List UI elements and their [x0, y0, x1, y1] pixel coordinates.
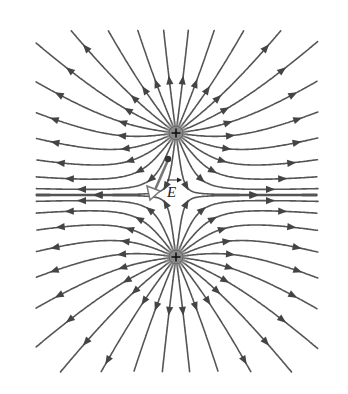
field-arrow-icon — [122, 105, 133, 116]
field-arrow-icon — [55, 223, 65, 231]
field-arrow-icon — [117, 263, 128, 273]
field-line — [181, 81, 317, 132]
field-arrow-icon — [102, 355, 113, 366]
field-line — [37, 225, 172, 254]
field-line — [108, 31, 173, 129]
field-arrow-icon — [139, 84, 150, 95]
field-arrow-icon — [239, 355, 250, 366]
field-arrow-icon — [207, 214, 218, 225]
field-line — [177, 138, 317, 195]
field-line — [177, 262, 190, 372]
field-arrow-icon — [117, 250, 127, 258]
field-line — [178, 138, 318, 190]
field-arrow-icon — [217, 224, 228, 234]
field-arrow-icon — [165, 75, 173, 85]
field-line — [36, 82, 171, 132]
field-arrow-icon — [133, 214, 144, 225]
field-line — [36, 196, 175, 253]
field-arrow-icon — [202, 84, 213, 95]
field-arrow-icon — [287, 223, 297, 231]
field-arrow-icon — [151, 301, 161, 312]
field-arrow-icon — [224, 263, 235, 273]
field-arrow-icon — [49, 266, 60, 276]
field-arrow-icon — [266, 197, 275, 204]
field-arrow-icon — [223, 118, 234, 128]
field-line — [101, 261, 173, 372]
field-line — [180, 225, 318, 254]
field-arrow-icon — [77, 186, 86, 193]
field-line — [180, 136, 318, 165]
field-vector-label: E — [166, 184, 176, 200]
field-arrow-icon — [49, 114, 60, 124]
field-line — [162, 262, 175, 372]
field-arrow-icon — [203, 296, 214, 307]
field-arrow-icon — [226, 132, 236, 140]
field-arrow-icon — [53, 89, 64, 100]
field-arrow-icon — [288, 290, 299, 301]
field-arrow-icon — [278, 208, 287, 216]
field-arrow-icon — [65, 175, 74, 183]
field-arrow-icon — [121, 275, 132, 286]
field-arrow-icon — [226, 250, 236, 258]
field-arrow-icon — [65, 208, 74, 216]
field-arrow-icon — [266, 186, 275, 193]
field-line — [179, 261, 251, 372]
field-arrow-icon — [120, 237, 130, 245]
field-arrow-icon — [293, 266, 304, 276]
field-arrow-icon — [77, 197, 86, 204]
field-line — [71, 31, 172, 130]
field-arrow-icon — [287, 159, 297, 167]
field-arrow-icon — [207, 166, 218, 177]
field-arrow-icon — [222, 145, 232, 153]
field-arrow-icon — [124, 224, 135, 234]
field-line — [177, 196, 317, 253]
field-line — [180, 31, 281, 130]
field-lines — [36, 30, 318, 372]
field-line — [179, 31, 244, 129]
field-arrow-icon — [220, 275, 231, 286]
field-arrow-icon — [293, 114, 304, 124]
field-arrow-icon — [138, 296, 149, 307]
field-arrow-icon — [179, 75, 187, 85]
field-arrow-icon — [117, 132, 127, 140]
field-arrow-icon — [217, 156, 228, 166]
field-arrow-icon — [55, 159, 65, 167]
field-arrow-icon — [165, 306, 173, 316]
field-arrow-icon — [191, 301, 201, 312]
field-arrow-icon — [220, 104, 231, 115]
field-arrow-icon — [151, 78, 161, 89]
field-arrow-icon — [124, 156, 135, 166]
electric-field-diagram: E — [0, 0, 348, 394]
field-line — [36, 138, 175, 195]
field-line — [180, 260, 292, 372]
field-line — [178, 201, 318, 253]
field-arrow-icon — [117, 117, 128, 127]
field-point — [165, 156, 171, 162]
field-line — [37, 136, 172, 165]
field-arrow-icon — [53, 290, 64, 301]
field-arrow-icon — [133, 166, 144, 177]
positive-charge — [163, 120, 189, 146]
field-arrow-icon — [222, 237, 232, 245]
field-line — [181, 258, 317, 309]
field-arrow-icon — [179, 306, 187, 316]
field-arrow-icon — [191, 78, 201, 89]
vector-arrow-accent-head — [177, 178, 182, 183]
field-arrow-icon — [288, 89, 299, 100]
field-line — [61, 260, 173, 372]
field-arrow-icon — [278, 175, 287, 183]
field-line — [36, 258, 171, 308]
positive-charge — [163, 244, 189, 270]
field-arrow-icon — [120, 145, 130, 153]
